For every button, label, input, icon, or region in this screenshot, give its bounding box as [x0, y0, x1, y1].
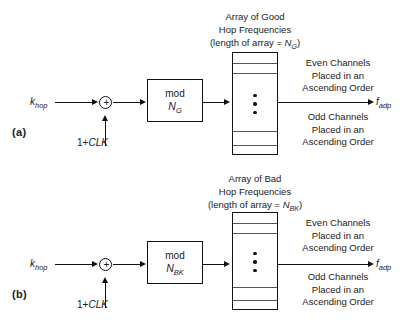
array-row-divider — [233, 233, 277, 234]
note-odd-line2-a: Placed in an — [284, 124, 392, 137]
arrow-array-to-output-b — [368, 261, 374, 267]
input-signal-label-b: khop — [30, 258, 48, 272]
arrow-sum-to-mod-a — [140, 99, 146, 105]
note-odd-line3-a: Ascending Order — [284, 136, 392, 149]
note-even-line3-b: Ascending Order — [284, 242, 392, 255]
wire-input-to-sum-b — [55, 264, 93, 265]
vertical-ellipsis-a — [233, 94, 277, 114]
array-row-divider — [233, 300, 277, 301]
array-row-divider — [233, 63, 277, 64]
array-box-b — [232, 212, 278, 310]
ellipsis-dot — [253, 102, 256, 105]
note-odd-channels-a: Odd Channels Placed in an Ascending Orde… — [284, 111, 392, 149]
note-even-line1-a: Even Channels — [284, 57, 392, 70]
wire-sum-to-mod-a — [113, 102, 141, 103]
arrow-sum-to-mod-b — [140, 261, 146, 267]
mod-operand-b: NBK — [148, 262, 202, 278]
wire-sum-to-mod-b — [113, 264, 141, 265]
note-odd-line3-b: Ascending Order — [284, 296, 392, 309]
array-row-divider — [233, 145, 277, 146]
note-odd-line1-a: Odd Channels — [284, 111, 392, 124]
note-even-line2-b: Placed in an — [284, 230, 392, 243]
vertical-ellipsis-b — [233, 252, 277, 272]
array-caption-line2-a: Hop Frequencies — [175, 23, 335, 36]
note-even-channels-b: Even Channels Placed in an Ascending Ord… — [284, 217, 392, 255]
panel-a: (a) khop + 1+CLK mod NG Array of Good Ho… — [0, 0, 405, 162]
array-row-divider — [233, 73, 277, 74]
summing-junction-a: + — [99, 96, 112, 109]
panel-letter-a: (a) — [12, 126, 26, 138]
arrow-clock-to-sum-a — [102, 115, 108, 121]
array-caption-a: Array of Good Hop Frequencies (length of… — [175, 10, 335, 53]
input-signal-label-a: khop — [30, 96, 48, 110]
summing-junction-b: + — [99, 258, 112, 271]
note-odd-channels-b: Odd Channels Placed in an Ascending Orde… — [284, 271, 392, 309]
array-caption-line3-a: (length of array = NG) — [175, 36, 335, 53]
arrow-input-to-sum-b — [92, 261, 98, 267]
array-box-a — [232, 52, 278, 155]
arrow-array-to-output-a — [368, 99, 374, 105]
arrow-input-to-sum-a — [92, 99, 98, 105]
array-caption-line1-b: Array of Bad — [175, 172, 335, 185]
plus-sign-a: + — [100, 96, 113, 109]
wire-input-to-sum-a — [55, 102, 93, 103]
mod-box-a: mod NG — [147, 79, 203, 122]
note-odd-line1-b: Odd Channels — [284, 271, 392, 284]
array-row-divider — [233, 223, 277, 224]
output-signal-label-a: fadp — [376, 96, 391, 110]
note-even-line1-b: Even Channels — [284, 217, 392, 230]
mod-label-a: mod — [148, 88, 202, 100]
wire-array-to-output-b — [278, 264, 370, 265]
wire-mod-to-array-a — [203, 102, 225, 103]
mod-operand-a: NG — [148, 100, 202, 116]
note-even-channels-a: Even Channels Placed in an Ascending Ord… — [284, 57, 392, 95]
note-odd-line2-b: Placed in an — [284, 284, 392, 297]
arrow-mod-to-array-a — [224, 99, 230, 105]
ellipsis-dot — [253, 252, 256, 255]
wire-mod-to-array-b — [203, 264, 225, 265]
mod-box-b: mod NBK — [147, 241, 203, 284]
ellipsis-dot — [253, 111, 256, 114]
plus-sign-b: + — [100, 258, 113, 271]
arrow-clock-to-sum-b — [102, 277, 108, 283]
clock-label-b: 1+CLK — [77, 299, 108, 310]
ellipsis-dot — [253, 269, 256, 272]
array-caption-line2-b: Hop Frequencies — [175, 185, 335, 198]
arrow-mod-to-array-b — [224, 261, 230, 267]
ellipsis-dot — [253, 94, 256, 97]
array-row-divider — [233, 287, 277, 288]
array-caption-b: Array of Bad Hop Frequencies (length of … — [175, 172, 335, 215]
array-caption-line1-a: Array of Good — [175, 10, 335, 23]
panel-b: (b) khop + 1+CLK mod NBK Array of Bad Ho… — [0, 162, 405, 324]
note-even-line2-a: Placed in an — [284, 70, 392, 83]
panel-letter-b: (b) — [12, 288, 27, 300]
clock-label-a: 1+CLK — [77, 137, 108, 148]
wire-array-to-output-a — [278, 102, 370, 103]
ellipsis-dot — [253, 260, 256, 263]
array-row-divider — [233, 131, 277, 132]
output-signal-label-b: fadp — [376, 258, 391, 272]
note-even-line3-a: Ascending Order — [284, 82, 392, 95]
mod-label-b: mod — [148, 250, 202, 262]
